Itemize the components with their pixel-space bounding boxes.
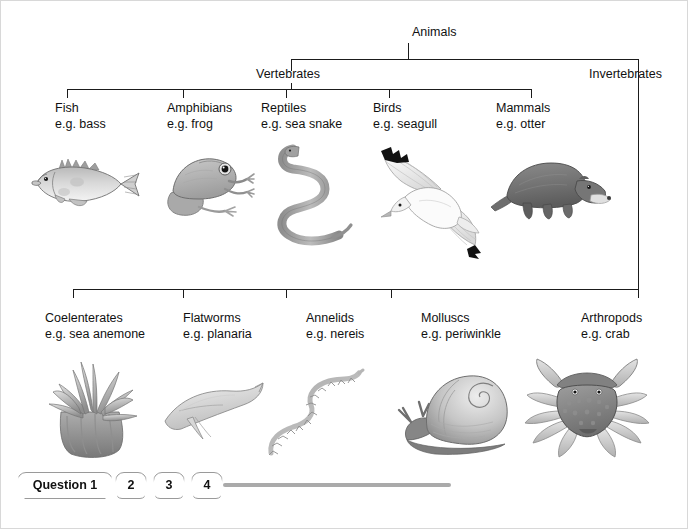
tree-line-animals-split xyxy=(291,59,639,60)
tree-tick-coelenterates xyxy=(73,289,74,298)
progress-rule xyxy=(223,483,451,487)
leaf-mammals: Mammals e.g. otter xyxy=(496,101,550,132)
tab-question-4[interactable]: 4 xyxy=(191,472,223,499)
leaf-example: e.g. frog xyxy=(167,117,232,133)
leaf-coelenterates: Coelenterates e.g. sea anemone xyxy=(45,311,145,342)
crab-illustration xyxy=(517,359,657,461)
planaria-illustration xyxy=(159,379,267,441)
tree-line-animals-stem xyxy=(408,43,409,59)
leaf-example: e.g. sea anemone xyxy=(45,327,145,343)
fish-illustration xyxy=(29,151,141,213)
tree-tick-mammals xyxy=(531,89,532,98)
leaf-example: e.g. nereis xyxy=(306,327,364,343)
diagram-page: Animals Vertebrates Invertebrates Fish e… xyxy=(0,0,688,529)
leaf-example: e.g. crab xyxy=(581,327,642,343)
node-label-animals: Animals xyxy=(412,25,456,40)
seagull-illustration xyxy=(371,141,487,259)
leaf-arthropods: Arthropods e.g. crab xyxy=(581,311,642,342)
node-label-invertebrates: Invertebrates xyxy=(589,67,662,82)
tab-question-1[interactable]: Question 1 xyxy=(17,472,113,499)
tab-question-3[interactable]: 3 xyxy=(153,472,185,499)
leaf-name: Amphibians xyxy=(167,101,232,117)
node-label-vertebrates: Vertebrates xyxy=(256,67,320,82)
leaf-amphibians: Amphibians e.g. frog xyxy=(167,101,232,132)
nereis-illustration xyxy=(267,369,363,457)
tree-tick-amphibians xyxy=(183,89,184,98)
sea-anemone-illustration xyxy=(35,356,143,460)
leaf-reptiles: Reptiles e.g. sea snake xyxy=(261,101,342,132)
tree-tick-arthropods xyxy=(638,289,639,298)
tree-line-invertebrates-bar xyxy=(73,289,639,290)
leaf-name: Flatworms xyxy=(183,311,252,327)
tree-line-vertebrates-bar xyxy=(67,89,532,90)
question-tab-bar: Question 1 2 3 4 xyxy=(1,472,688,528)
tree-line-invertebrates-trunk xyxy=(638,71,639,289)
tab-question-2[interactable]: 2 xyxy=(115,472,147,499)
leaf-name: Mammals xyxy=(496,101,550,117)
periwinkle-illustration xyxy=(397,366,521,458)
leaf-name: Arthropods xyxy=(581,311,642,327)
leaf-name: Coelenterates xyxy=(45,311,145,327)
leaf-name: Reptiles xyxy=(261,101,342,117)
tree-tick-flatworms xyxy=(183,289,184,298)
tree-tick-annelids xyxy=(286,289,287,298)
leaf-birds: Birds e.g. seagull xyxy=(373,101,437,132)
leaf-name: Annelids xyxy=(306,311,364,327)
leaf-example: e.g. sea snake xyxy=(261,117,342,133)
tree-tick-fish xyxy=(67,89,68,98)
sea-snake-illustration xyxy=(273,143,353,255)
leaf-example: e.g. periwinkle xyxy=(421,327,501,343)
leaf-name: Birds xyxy=(373,101,437,117)
leaf-fish: Fish e.g. bass xyxy=(55,101,106,132)
leaf-molluscs: Molluscs e.g. periwinkle xyxy=(421,311,501,342)
leaf-example: e.g. seagull xyxy=(373,117,437,133)
frog-illustration xyxy=(159,149,255,227)
leaf-name: Molluscs xyxy=(421,311,501,327)
tree-tick-birds xyxy=(389,89,390,98)
leaf-example: e.g. otter xyxy=(496,117,550,133)
tree-tick-molluscs xyxy=(391,289,392,298)
leaf-example: e.g. bass xyxy=(55,117,106,133)
leaf-annelids: Annelids e.g. nereis xyxy=(306,311,364,342)
otter-illustration xyxy=(485,151,613,223)
leaf-name: Fish xyxy=(55,101,106,117)
tree-tick-reptiles xyxy=(286,89,287,98)
leaf-flatworms: Flatworms e.g. planaria xyxy=(183,311,252,342)
leaf-example: e.g. planaria xyxy=(183,327,252,343)
